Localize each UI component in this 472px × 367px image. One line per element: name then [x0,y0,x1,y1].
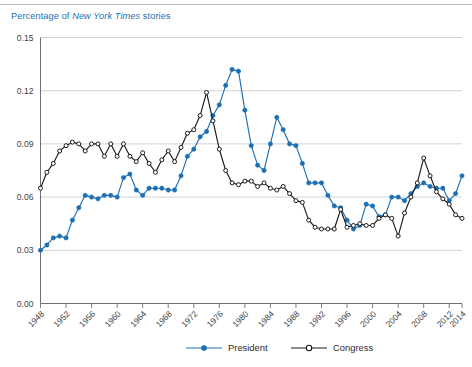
data-point-president [396,195,400,199]
data-point-congress [64,144,68,148]
data-point-congress [409,195,413,199]
data-point-congress [45,170,49,174]
data-point-president [390,195,394,199]
y-tick-label: 0.09 [17,139,34,149]
data-point-president [64,236,68,240]
data-point-congress [383,213,387,217]
data-point-congress [77,142,81,146]
data-point-congress [122,142,126,146]
data-point-congress [141,151,145,155]
data-point-president [460,174,464,178]
data-point-president [192,147,196,151]
y-tick-label: 0.06 [17,192,34,202]
data-point-congress [447,202,451,206]
x-tick-label: 1960 [102,309,122,329]
data-point-congress [96,142,100,146]
data-point-president [307,181,311,185]
data-point-congress [249,179,253,183]
data-point-president [370,204,374,208]
data-point-president [224,83,228,87]
x-tick-label: 1980 [230,309,250,329]
data-point-congress [153,170,157,174]
data-point-president [198,135,202,139]
x-tick-label: 1956 [77,309,97,329]
data-point-congress [115,154,119,158]
data-point-president [243,108,247,112]
data-point-congress [307,218,311,222]
data-point-congress [371,223,375,227]
data-point-congress [364,223,368,227]
data-point-congress [351,223,355,227]
x-tick-label: 2004 [383,309,403,329]
x-tick-label: 1964 [128,309,148,329]
data-point-congress [422,156,426,160]
data-point-congress [396,234,400,238]
x-tick-label: 1972 [179,309,199,329]
data-point-congress [415,181,419,185]
data-point-congress [428,174,432,178]
data-point-congress [109,142,113,146]
data-point-president [89,195,93,199]
y-tick-label: 0.12 [17,86,34,96]
data-point-congress [147,161,151,165]
chart-figure: Percentage of New York Times stories 0.0… [0,0,472,367]
data-point-president [172,188,176,192]
x-tick-label: 1992 [307,309,327,329]
legend-marker-president [201,345,206,350]
data-point-president [96,197,100,201]
data-point-congress [236,183,240,187]
y-tick-label: 0.00 [17,299,34,309]
data-point-congress [294,199,298,203]
data-point-congress [339,208,343,212]
x-tick-label: 1968 [154,309,174,329]
data-point-congress [256,184,260,188]
data-point-congress [460,216,464,220]
data-point-president [326,193,330,197]
data-point-congress [179,145,183,149]
data-point-president [51,236,55,240]
legend-marker-congress [306,345,311,350]
data-point-congress [166,149,170,153]
series-line-congress [41,92,463,236]
x-tick-label: 1988 [281,309,301,329]
data-point-president [300,161,304,165]
data-point-congress [288,192,292,196]
data-point-president [134,188,138,192]
chart-plot-area: 0.000.030.060.090.120.15 194819521956196… [0,0,472,367]
gridlines-group [41,38,463,304]
data-point-president [453,191,457,195]
data-point-president [262,168,266,172]
data-point-congress [390,216,394,220]
data-point-congress [39,186,43,190]
x-tick-label: 1996 [332,309,352,329]
x-tick-label: 2008 [409,309,429,329]
data-point-president [128,172,132,176]
data-point-president [38,248,42,252]
data-point-president [77,206,81,210]
data-point-congress [332,227,336,231]
data-point-president [83,193,87,197]
data-point-president [70,218,74,222]
data-point-congress [173,160,177,164]
data-point-president [249,144,253,148]
data-point-president [441,186,445,190]
y-tick-label: 0.03 [17,245,34,255]
x-tick-label: 1948 [26,309,46,329]
data-point-president [268,142,272,146]
data-point-president [428,184,432,188]
data-point-president [230,67,234,71]
data-point-congress [454,213,458,217]
data-point-congress [262,181,266,185]
x-tick-label: 1976 [205,309,225,329]
data-point-president [255,163,259,167]
data-point-congress [441,197,445,201]
data-point-president [102,193,106,197]
data-point-congress [224,169,228,173]
data-point-president [422,181,426,185]
data-point-congress [345,225,349,229]
data-point-congress [326,227,330,231]
data-point-congress [102,154,106,158]
x-tick-label: 2000 [358,309,378,329]
data-point-congress [83,149,87,153]
data-point-congress [268,186,272,190]
